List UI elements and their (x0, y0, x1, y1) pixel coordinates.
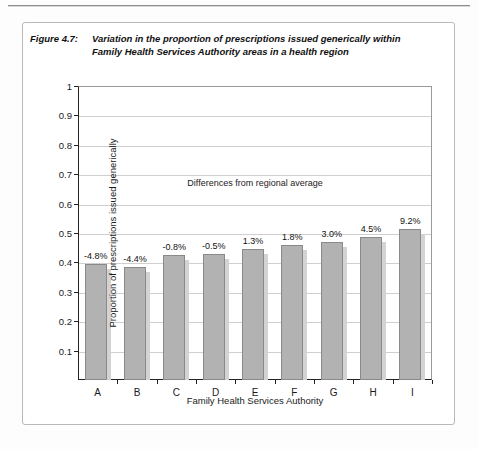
y-axis-tick-mark (74, 351, 78, 352)
bar: -4.4% (124, 86, 150, 380)
bar-body (203, 254, 225, 380)
y-axis-tick-label: 0.6 (59, 198, 72, 209)
y-axis-tick-label: 1 (67, 81, 72, 92)
figure-number: Figure 4.7: (30, 33, 92, 46)
chart-plot: 0.10.20.30.40.50.60.70.80.91 -4.8%-4.4%-… (78, 86, 432, 380)
bar-value-label: 1.3% (243, 236, 264, 246)
bar: 3.0% (321, 86, 347, 380)
y-axis-tick-mark (74, 262, 78, 263)
bar-value-label: -0.5% (202, 241, 226, 251)
y-axis-tick-mark (74, 174, 78, 175)
bar-body (124, 267, 146, 380)
bar: 1.3% (242, 86, 268, 380)
bar-value-label: 1.8% (282, 232, 303, 242)
bar-body (399, 229, 421, 380)
y-axis-tick-label: 0.9 (59, 110, 72, 121)
x-axis-tick-mark (314, 380, 315, 384)
y-axis-tick-mark (74, 86, 78, 87)
bar-value-label: 9.2% (400, 216, 421, 226)
bar: -0.5% (203, 86, 229, 380)
page-header-rule (8, 5, 470, 6)
bar-value-label: -4.4% (123, 254, 147, 264)
y-axis-tick-mark (74, 145, 78, 146)
y-axis-tick-mark (74, 233, 78, 234)
x-axis-tick-mark (275, 380, 276, 384)
bar-body (242, 249, 264, 380)
x-axis-tick-mark (235, 380, 236, 384)
x-axis-tick-mark (196, 380, 197, 384)
bar-body (281, 245, 303, 380)
x-axis-tick-mark (157, 380, 158, 384)
y-axis-tick-mark (74, 321, 78, 322)
bar-body (85, 264, 107, 380)
bar-value-label: 3.0% (321, 229, 342, 239)
chart-annotation: Differences from regional average (78, 178, 432, 188)
y-axis-tick-label: 0.7 (59, 169, 72, 180)
bar-value-label: -4.8% (84, 251, 108, 261)
bar: 1.8% (281, 86, 307, 380)
x-axis-tick-mark (432, 380, 433, 384)
y-axis-tick-label: 0.5 (59, 228, 72, 239)
bar-body (163, 255, 185, 380)
bar: -0.8% (163, 86, 189, 380)
y-axis-tick-mark (74, 204, 78, 205)
bar-body (321, 242, 343, 380)
figure-caption: Figure 4.7: Variation in the proportion … (30, 33, 440, 58)
bar-value-label: 4.5% (361, 224, 382, 234)
x-axis-tick-mark (393, 380, 394, 384)
bar-body (360, 237, 382, 380)
x-axis-tick-mark (117, 380, 118, 384)
bar-value-label: -0.8% (163, 242, 187, 252)
bar: 9.2% (399, 86, 425, 380)
y-axis-title: Proportion of prescriptions issued gener… (107, 138, 118, 327)
y-axis-tick-label: 0.1 (59, 345, 72, 356)
y-axis-tick-label: 0.4 (59, 257, 72, 268)
figure-title-line-2: Family Health Services Authority areas i… (92, 46, 349, 57)
x-axis-title: Family Health Services Authority (78, 395, 432, 406)
y-axis-tick-label: 0.8 (59, 139, 72, 150)
x-axis-tick-mark (353, 380, 354, 384)
figure-title: Variation in the proportion of prescript… (92, 33, 440, 58)
y-axis-tick-mark (74, 115, 78, 116)
y-axis-tick-label: 0.3 (59, 286, 72, 297)
bar: 4.5% (360, 86, 386, 380)
y-axis-tick-label: 0.2 (59, 316, 72, 327)
y-axis-tick-mark (74, 292, 78, 293)
figure-title-line-1: Variation in the proportion of prescript… (92, 33, 400, 44)
